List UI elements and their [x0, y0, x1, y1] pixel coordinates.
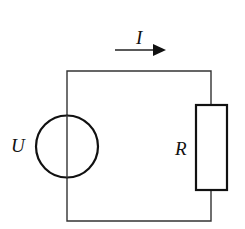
- circuit-svg: U R I: [0, 0, 245, 229]
- bottom-wire: [67, 178, 211, 221]
- current-indicator: I: [115, 27, 166, 56]
- voltage-source: U: [11, 115, 98, 178]
- resistor: R: [174, 105, 227, 190]
- current-label: I: [135, 27, 144, 48]
- resistor-body: [196, 105, 227, 190]
- circuit-diagram: U R I: [0, 0, 245, 229]
- source-label: U: [11, 135, 26, 156]
- wires: [67, 71, 211, 221]
- top-wire: [67, 71, 211, 115]
- arrow-right-icon: [153, 44, 166, 56]
- resistor-label: R: [174, 138, 187, 159]
